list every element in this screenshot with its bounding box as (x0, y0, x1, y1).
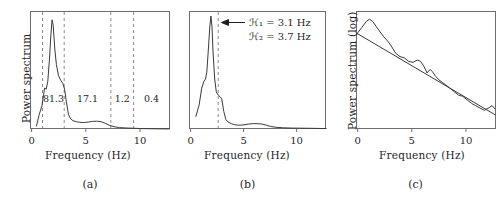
panel-a-caption: (a) (0, 178, 180, 191)
xtick-label-5: 5 (240, 135, 246, 146)
annotation-arrow-head (222, 20, 229, 26)
panel-c-xlabel: Frequency (Hz) (379, 149, 465, 161)
panel-c-caption: (c) (330, 178, 501, 191)
panel-a-ylabel: Power spectrum (20, 34, 32, 123)
panel-b-xlabel: Frequency (Hz) (204, 149, 290, 161)
band-label-4: 0.4 (144, 93, 159, 104)
harmonic-1-label: ℋ₁ = 3.1 Hz (249, 17, 311, 28)
xtick-label-5: 5 (83, 135, 89, 146)
xtick-label-10: 10 (134, 135, 147, 146)
power-spectrum-curve (37, 20, 170, 129)
xtick-label-0: 0 (187, 135, 193, 146)
xtick-label-5: 5 (409, 135, 415, 146)
xtick-label-0: 0 (28, 135, 34, 146)
log-power-spectrum-curve (357, 19, 496, 110)
panel-c: 0 5 10 Frequency (Hz) Power spectrum (lo… (330, 0, 501, 202)
xtick-label-10: 10 (290, 135, 303, 146)
linear-fit-line (357, 33, 496, 115)
band-label-1: 81.3 (43, 93, 64, 104)
band-label-3: 1.2 (115, 93, 130, 104)
xtick-label-0: 0 (354, 135, 360, 146)
panel-a: 0 5 10 81.3 17.1 1.2 0.4 Frequency (Hz) … (0, 0, 180, 202)
band-label-2: 17.1 (77, 93, 98, 104)
panel-a-xlabel: Frequency (Hz) (45, 149, 131, 161)
panel-b-caption: (b) (165, 178, 330, 191)
harmonic-2-label: ℋ₂ = 3.7 Hz (249, 31, 311, 42)
figure-container: 0 5 10 81.3 17.1 1.2 0.4 Frequency (Hz) … (0, 0, 501, 202)
xtick-label-10: 10 (460, 135, 473, 146)
panel-c-ylabel: Power spectrum (log) (346, 11, 358, 130)
panel-b: ℋ₁ = 3.1 Hz ℋ₂ = 3.7 Hz 0 5 10 Frequency… (165, 0, 330, 202)
